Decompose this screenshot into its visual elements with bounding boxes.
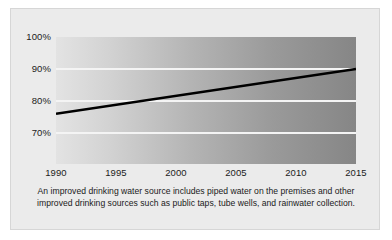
y-axis-tick-100: 100% bbox=[13, 32, 51, 42]
y-axis-tick-70: 70% bbox=[13, 128, 51, 138]
data-series-line bbox=[56, 37, 356, 164]
line-chart: 100% 90% 80% 70% 1990 1995 2000 2005 201… bbox=[11, 9, 381, 181]
x-axis-tick-1995: 1995 bbox=[96, 167, 136, 178]
x-axis-tick-1990: 1990 bbox=[36, 167, 76, 178]
caption-line-1: An improved drinking water source includ… bbox=[25, 185, 367, 197]
x-axis-tick-2015: 2015 bbox=[336, 167, 376, 178]
figure-card: 100% 90% 80% 70% 1990 1995 2000 2005 201… bbox=[10, 8, 380, 230]
figure-caption: An improved drinking water source includ… bbox=[25, 185, 367, 209]
caption-line-2: improved drinking sources such as public… bbox=[25, 197, 367, 209]
x-axis-tick-2010: 2010 bbox=[276, 167, 316, 178]
x-axis-tick-2005: 2005 bbox=[216, 167, 256, 178]
x-axis-tick-2000: 2000 bbox=[156, 167, 196, 178]
plot-area bbox=[56, 37, 356, 164]
y-axis-tick-80: 80% bbox=[13, 96, 51, 106]
y-axis-tick-90: 90% bbox=[13, 64, 51, 74]
